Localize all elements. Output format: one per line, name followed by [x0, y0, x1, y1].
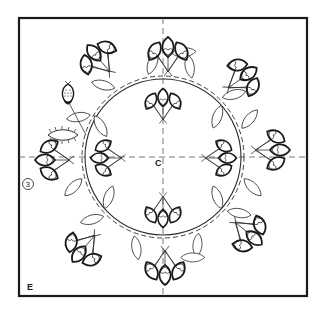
corner-label: E	[27, 282, 33, 292]
bud-clusters-inner	[91, 89, 237, 228]
strawberry-icon	[62, 81, 86, 135]
step-number-badge: 3	[23, 179, 34, 190]
bud-clusters-outer	[35, 30, 290, 285]
bud-cluster-bottom	[142, 246, 189, 285]
center-label: C	[155, 158, 162, 168]
bud-cluster-lower-right	[217, 202, 277, 263]
bud-cluster-left	[35, 137, 74, 184]
bud-cluster-lower-left	[55, 217, 116, 277]
step-number: 3	[26, 180, 31, 189]
bud-cluster-right	[251, 127, 290, 174]
pattern-diagram: C E 3	[0, 0, 324, 310]
bud-cluster-upper-right	[211, 49, 270, 110]
